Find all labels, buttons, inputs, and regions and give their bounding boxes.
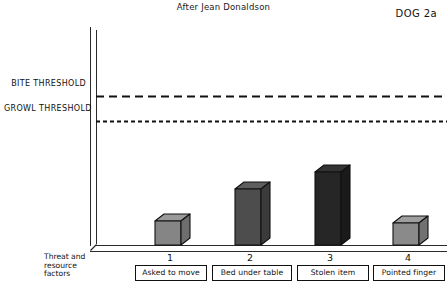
- category-box-3: Stolen item: [297, 265, 369, 281]
- x-axis-caption: Threat and resource factors: [44, 253, 90, 279]
- bar-number-4: 4: [388, 252, 428, 263]
- bar-chart: After Jean Donaldson DOG 2a BITE THRESHO…: [0, 0, 447, 285]
- bar-number-2: 2: [230, 252, 270, 263]
- category-box-2: Bed under table: [212, 265, 292, 281]
- bar-number-1: 1: [150, 252, 190, 263]
- category-label-2: Bed under table: [221, 269, 284, 277]
- bar-4: [390, 211, 430, 249]
- category-box-4: Pointed finger: [373, 265, 445, 281]
- bar-2: [232, 177, 272, 249]
- growl-threshold-label: GROWL THRESHOLD: [4, 104, 86, 113]
- category-label-4: Pointed finger: [382, 269, 436, 277]
- category-label-1: Asked to move: [142, 269, 200, 277]
- growl-threshold-line: [96, 108, 447, 111]
- bar-3: [312, 160, 352, 249]
- sheet-code-label: DOG 2a: [0, 8, 437, 19]
- y-axis-outer-line: [90, 27, 91, 246]
- bite-threshold-label: BITE THRESHOLD: [4, 79, 86, 88]
- bar-number-3: 3: [310, 252, 350, 263]
- bar-1: [152, 209, 192, 249]
- category-box-1: Asked to move: [135, 265, 207, 281]
- y-axis-inner-line: [96, 30, 97, 244]
- x-axis-caption-line-3: factors: [44, 270, 90, 279]
- bite-threshold-line: [96, 83, 447, 86]
- category-label-3: Stolen item: [311, 269, 356, 277]
